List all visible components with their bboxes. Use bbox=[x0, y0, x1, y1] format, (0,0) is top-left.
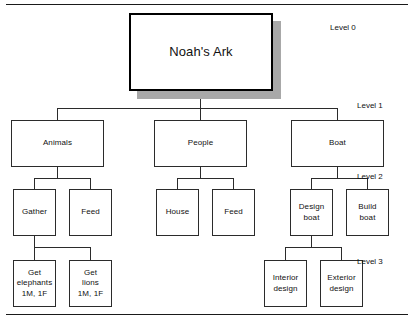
connector-to-gather bbox=[34, 178, 35, 189]
node-design-boat-label: Design boat bbox=[299, 202, 325, 223]
connector-to-interior-design bbox=[285, 247, 286, 260]
diagram-canvas: Level 0 Level 1 Level 2 Level 3 Noah's A… bbox=[0, 0, 414, 323]
node-feed-animals-label: Feed bbox=[81, 207, 100, 218]
level-label-2: Level 2 bbox=[357, 172, 383, 182]
connector-animals-bus bbox=[34, 178, 91, 179]
connector-to-house bbox=[177, 178, 178, 189]
node-house[interactable]: House bbox=[156, 189, 199, 236]
node-gather[interactable]: Gather bbox=[13, 189, 56, 236]
connector-level1-bus bbox=[57, 108, 338, 109]
node-feed-people[interactable]: Feed bbox=[212, 189, 255, 236]
connector-to-boat bbox=[337, 108, 338, 120]
node-get-elephants-label: Get elephants 1M, 1F bbox=[17, 268, 53, 300]
connector-people-bus bbox=[177, 178, 234, 179]
connector-gather-bus bbox=[34, 247, 91, 248]
node-get-elephants[interactable]: Get elephants 1M, 1F bbox=[13, 260, 56, 307]
connector-to-animals bbox=[57, 108, 58, 120]
connector-to-people bbox=[200, 108, 201, 120]
node-root[interactable]: Noah's Ark bbox=[129, 13, 273, 91]
node-people-label: People bbox=[188, 138, 214, 149]
node-people[interactable]: People bbox=[154, 120, 247, 167]
connector-to-feed-people bbox=[233, 178, 234, 189]
node-exterior-design[interactable]: Exterior design bbox=[320, 260, 363, 307]
connector-to-feed-animals bbox=[90, 178, 91, 189]
node-build-boat-label: Build boat bbox=[358, 202, 376, 223]
node-interior-design-label: Interior design bbox=[273, 273, 299, 294]
node-house-label: House bbox=[166, 207, 190, 218]
node-feed-people-label: Feed bbox=[224, 207, 243, 218]
node-root-label: Noah's Ark bbox=[169, 44, 232, 60]
node-gather-label: Gather bbox=[22, 207, 47, 218]
node-exterior-design-label: Exterior design bbox=[327, 273, 355, 294]
connector-design-boat-bus bbox=[285, 247, 342, 248]
node-get-lions[interactable]: Get lions 1M, 1F bbox=[69, 260, 112, 307]
node-boat-label: Boat bbox=[329, 138, 346, 149]
node-animals[interactable]: Animals bbox=[11, 120, 104, 167]
node-feed-animals[interactable]: Feed bbox=[69, 189, 112, 236]
node-design-boat[interactable]: Design boat bbox=[290, 189, 333, 236]
level-label-1: Level 1 bbox=[357, 101, 383, 111]
connector-to-get-elephants bbox=[34, 247, 35, 260]
connector-to-design-boat bbox=[311, 178, 312, 189]
connector-to-get-lions bbox=[90, 247, 91, 260]
node-animals-label: Animals bbox=[43, 138, 72, 149]
node-get-lions-label: Get lions 1M, 1F bbox=[78, 268, 104, 300]
bottom-divider-rule bbox=[6, 314, 408, 315]
node-build-boat[interactable]: Build boat bbox=[346, 189, 389, 236]
level-label-3: Level 3 bbox=[357, 257, 383, 267]
top-divider-rule bbox=[6, 4, 408, 5]
node-interior-design[interactable]: Interior design bbox=[264, 260, 307, 307]
level-label-0: Level 0 bbox=[330, 23, 356, 33]
node-boat[interactable]: Boat bbox=[291, 120, 384, 167]
connector-to-exterior-design bbox=[341, 247, 342, 260]
